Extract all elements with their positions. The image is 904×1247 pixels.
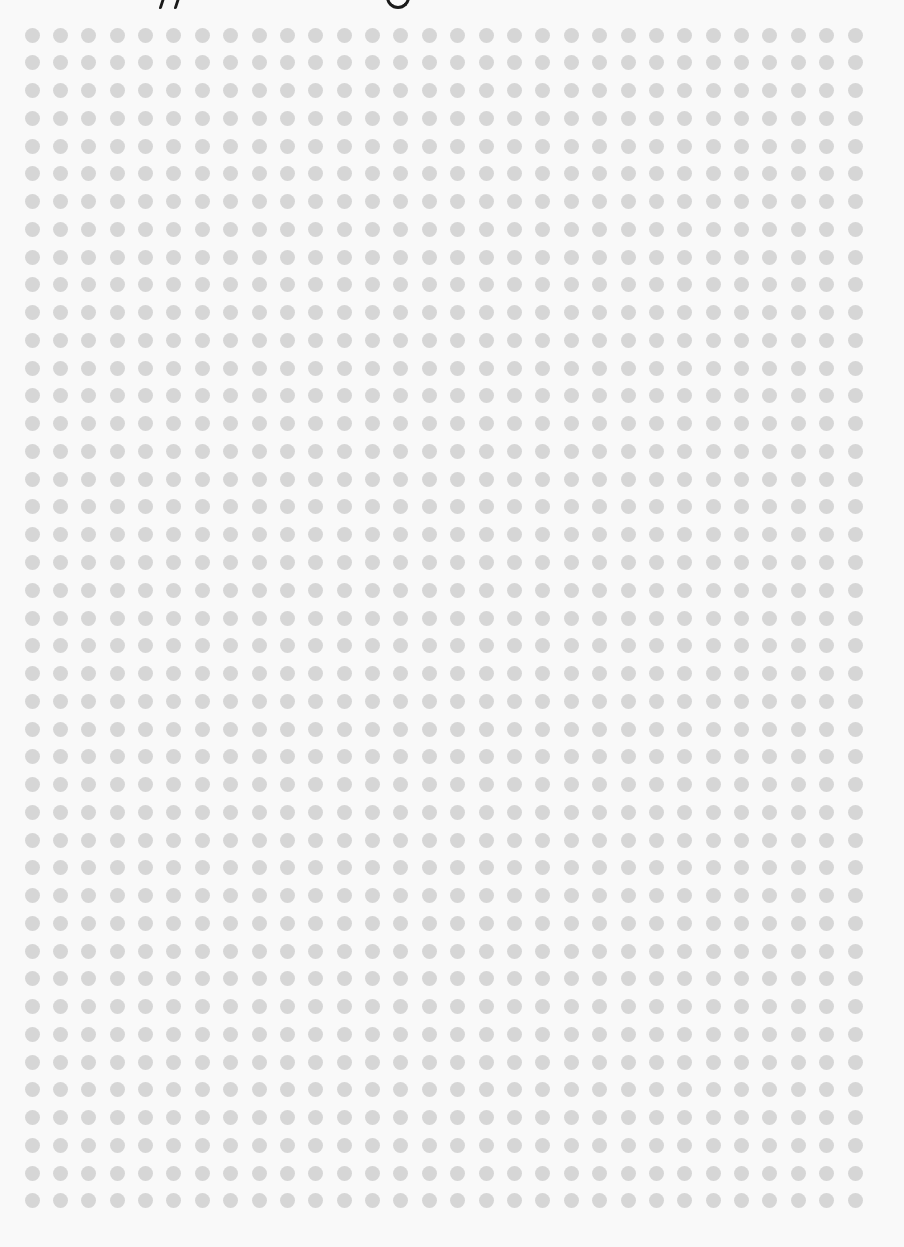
grid-dot [734, 555, 749, 570]
grid-dot [507, 361, 522, 376]
grid-dot [81, 416, 96, 431]
grid-dot [621, 694, 636, 709]
grid-dot [110, 388, 125, 403]
grid-dot [110, 166, 125, 181]
grid-dot [507, 722, 522, 737]
grid-dot [81, 833, 96, 848]
grid-dot [762, 1110, 777, 1125]
grid-dot [479, 694, 494, 709]
grid-dot [479, 555, 494, 570]
grid-dot [450, 527, 465, 542]
grid-dot [252, 83, 267, 98]
grid-dot [252, 583, 267, 598]
grid-dot [762, 638, 777, 653]
grid-dot [649, 222, 664, 237]
grid-dot [706, 499, 721, 514]
grid-dot [621, 444, 636, 459]
grid-dot [649, 944, 664, 959]
grid-dot [110, 222, 125, 237]
grid-dot [53, 944, 68, 959]
grid-dot [166, 888, 181, 903]
grid-dot [819, 1193, 834, 1208]
grid-dot [422, 777, 437, 792]
grid-dot [507, 777, 522, 792]
grid-dot [450, 805, 465, 820]
grid-dot [110, 472, 125, 487]
grid-dot [53, 805, 68, 820]
grid-dot [677, 555, 692, 570]
grid-dot [848, 472, 863, 487]
grid-dot [308, 333, 323, 348]
grid-dot [110, 1138, 125, 1153]
grid-dot [138, 333, 153, 348]
grid-dot [649, 194, 664, 209]
grid-dot [791, 166, 806, 181]
grid-dot [280, 388, 295, 403]
grid-dot [195, 722, 210, 737]
grid-dot [422, 194, 437, 209]
grid-dot [819, 333, 834, 348]
grid-dot [337, 583, 352, 598]
grid-dot [53, 166, 68, 181]
grid-dot [53, 1193, 68, 1208]
grid-dot [252, 333, 267, 348]
grid-dot [507, 222, 522, 237]
grid-dot [592, 888, 607, 903]
grid-dot [507, 305, 522, 320]
grid-dot [649, 971, 664, 986]
grid-dot [166, 333, 181, 348]
grid-dot [791, 499, 806, 514]
grid-dot [450, 222, 465, 237]
grid-dot [223, 28, 238, 43]
grid-dot [53, 1110, 68, 1125]
grid-dot [365, 472, 380, 487]
grid-dot [819, 944, 834, 959]
grid-dot [507, 944, 522, 959]
grid-dot [621, 222, 636, 237]
grid-dot [195, 1027, 210, 1042]
grid-dot [677, 277, 692, 292]
grid-dot [25, 888, 40, 903]
grid-dot [592, 499, 607, 514]
grid-dot [81, 305, 96, 320]
grid-dot [677, 499, 692, 514]
grid-dot [507, 1193, 522, 1208]
grid-dot [110, 805, 125, 820]
grid-dot [110, 999, 125, 1014]
grid-dot [138, 499, 153, 514]
grid-dot [393, 1082, 408, 1097]
grid-dot [337, 1110, 352, 1125]
grid-dot [507, 28, 522, 43]
grid-dot [819, 888, 834, 903]
grid-dot [564, 777, 579, 792]
grid-dot [621, 305, 636, 320]
grid-dot [450, 1082, 465, 1097]
grid-dot [762, 860, 777, 875]
grid-dot [223, 1027, 238, 1042]
grid-dot [649, 555, 664, 570]
grid-dot [479, 971, 494, 986]
grid-dot [621, 611, 636, 626]
grid-dot [308, 999, 323, 1014]
grid-dot [848, 638, 863, 653]
grid-dot [53, 583, 68, 598]
grid-dot [393, 1027, 408, 1042]
grid-dot [53, 250, 68, 265]
grid-dot [564, 971, 579, 986]
grid-dot [450, 305, 465, 320]
grid-dot [592, 944, 607, 959]
grid-dot [649, 916, 664, 931]
grid-dot [621, 583, 636, 598]
grid-dot [422, 1027, 437, 1042]
grid-dot [393, 499, 408, 514]
grid-dot [450, 361, 465, 376]
grid-dot [365, 1082, 380, 1097]
grid-dot [393, 638, 408, 653]
grid-dot [791, 333, 806, 348]
grid-dot [53, 611, 68, 626]
grid-dot [223, 1110, 238, 1125]
grid-dot [53, 999, 68, 1014]
grid-dot [195, 666, 210, 681]
grid-dot [762, 583, 777, 598]
grid-dot [848, 55, 863, 70]
